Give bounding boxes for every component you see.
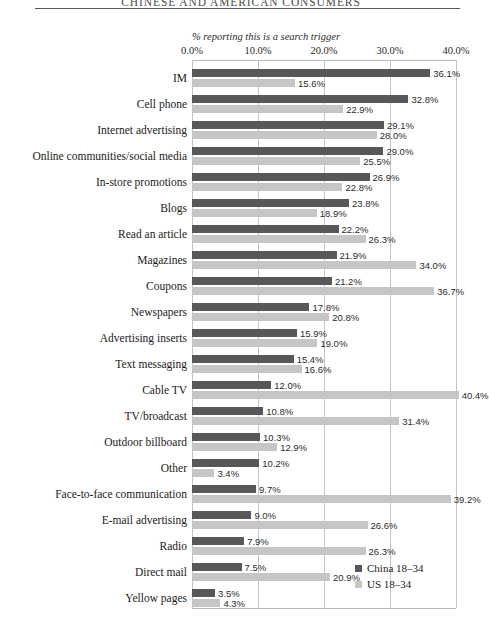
value-label-us: 20.8% — [332, 312, 359, 323]
bar-china — [192, 95, 408, 103]
bar-china — [192, 225, 339, 233]
value-label-china: 21.2% — [335, 276, 362, 287]
bar-row: E-mail advertising9.0%26.6% — [0, 510, 482, 536]
value-label-us: 34.0% — [419, 260, 446, 271]
category-label: Online communities/social media — [32, 150, 187, 162]
x-tick-label: 0.0% — [181, 45, 203, 56]
bar-us — [192, 339, 317, 347]
value-label-china: 10.2% — [262, 458, 289, 469]
x-tick-label: 10.0% — [244, 45, 271, 56]
bar-us — [192, 547, 366, 555]
category-label: In-store promotions — [96, 176, 187, 188]
x-tick-label: 30.0% — [376, 45, 403, 56]
category-label: Cable TV — [142, 384, 187, 396]
bar-us — [192, 261, 416, 269]
value-label-us: 31.4% — [402, 416, 429, 427]
bar-china — [192, 173, 370, 181]
bar-china — [192, 147, 383, 155]
value-label-us: 26.3% — [369, 234, 396, 245]
category-label: Internet advertising — [97, 124, 187, 136]
bar-china — [192, 121, 384, 129]
bar-china — [192, 537, 244, 545]
plot-area: IM36.1%15.6%Cell phone32.8%22.9%Internet… — [192, 60, 456, 608]
bar-row: Online communities/social media29.0%25.5… — [0, 146, 482, 172]
bar-us — [192, 391, 459, 399]
bar-row: Face-to-face communication9.7%39.2% — [0, 484, 482, 510]
value-label-us: 19.0% — [320, 338, 347, 349]
chart-legend: China 18–34US 18–34 — [355, 561, 424, 593]
bar-us — [192, 573, 330, 581]
value-label-china: 12.0% — [274, 380, 301, 391]
legend-item: China 18–34 — [355, 561, 424, 575]
legend-item: US 18–34 — [355, 577, 424, 591]
x-axis-title: % reporting this is a search trigger — [192, 31, 340, 42]
bar-china — [192, 511, 251, 519]
bar-row: Cell phone32.8%22.9% — [0, 94, 482, 120]
category-label: Coupons — [146, 280, 187, 292]
category-label: Yellow pages — [125, 592, 187, 604]
bar-us — [192, 417, 399, 425]
category-label: Advertising inserts — [100, 332, 187, 344]
bar-row: Blogs23.8%18.9% — [0, 198, 482, 224]
value-label-us: 18.9% — [320, 208, 347, 219]
value-label-us: 16.6% — [305, 364, 332, 375]
legend-label: China 18–34 — [367, 562, 424, 574]
value-label-china: 36.1% — [433, 68, 460, 79]
bar-row: Internet advertising29.1%28.0% — [0, 120, 482, 146]
bar-us — [192, 495, 451, 503]
bar-us — [192, 313, 329, 321]
bar-row: IM36.1%15.6% — [0, 68, 482, 94]
value-label-us: 4.3% — [223, 598, 245, 609]
bar-row: Magazines21.9%34.0% — [0, 250, 482, 276]
category-label: Other — [161, 462, 187, 474]
bar-row: Coupons21.2%36.7% — [0, 276, 482, 302]
bar-row: Cable TV12.0%40.4% — [0, 380, 482, 406]
bar-china — [192, 303, 309, 311]
bar-china — [192, 589, 215, 597]
value-label-us: 26.3% — [369, 546, 396, 557]
value-label-china: 32.8% — [411, 94, 438, 105]
bar-us — [192, 521, 368, 529]
category-label: Radio — [160, 540, 187, 552]
category-label: Magazines — [137, 254, 187, 266]
value-label-china: 9.0% — [254, 510, 276, 521]
legend-label: US 18–34 — [367, 578, 411, 590]
value-label-us: 39.2% — [454, 494, 481, 505]
bar-china — [192, 459, 259, 467]
value-label-us: 28.0% — [380, 130, 407, 141]
bar-row: Advertising inserts15.9%19.0% — [0, 328, 482, 354]
value-label-china: 21.9% — [340, 250, 367, 261]
x-tick-label: 20.0% — [310, 45, 337, 56]
value-label-us: 12.9% — [280, 442, 307, 453]
bar-china — [192, 355, 294, 363]
bar-us — [192, 599, 220, 607]
value-label-china: 10.8% — [266, 406, 293, 417]
bar-row: Read an article22.2%26.3% — [0, 224, 482, 250]
bar-row: Outdoor billboard10.3%12.9% — [0, 432, 482, 458]
legend-swatch-us — [355, 581, 362, 588]
bar-china — [192, 381, 271, 389]
bar-row: Other10.2%3.4% — [0, 458, 482, 484]
category-label: Outdoor billboard — [104, 436, 187, 448]
bar-us — [192, 157, 360, 165]
bar-us — [192, 235, 366, 243]
value-label-us: 22.9% — [346, 104, 373, 115]
value-label-china: 23.8% — [352, 198, 379, 209]
value-label-us: 36.7% — [437, 286, 464, 297]
value-label-us: 26.6% — [371, 520, 398, 531]
value-label-china: 7.9% — [247, 536, 269, 547]
category-label: TV/broadcast — [124, 410, 187, 422]
bar-china — [192, 69, 430, 77]
category-label: Newspapers — [131, 306, 187, 318]
bar-row: In-store promotions26.9%22.8% — [0, 172, 482, 198]
bar-us — [192, 443, 277, 451]
value-label-us: 15.6% — [298, 78, 325, 89]
category-label: Direct mail — [135, 566, 187, 578]
x-tick-label: 40.0% — [442, 45, 469, 56]
category-label: IM — [173, 72, 187, 84]
legend-swatch-china — [355, 565, 362, 572]
bar-china — [192, 485, 256, 493]
value-label-us: 3.4% — [217, 468, 239, 479]
bar-us — [192, 131, 377, 139]
value-label-us: 40.4% — [462, 390, 489, 401]
